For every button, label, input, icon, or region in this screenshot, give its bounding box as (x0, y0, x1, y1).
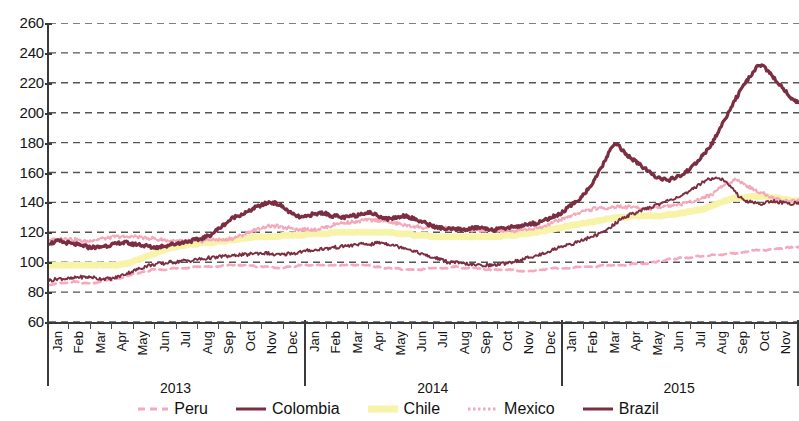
x-axis-month-tick (154, 322, 155, 329)
x-axis-month-tick (733, 322, 734, 329)
page-top-edge (0, 0, 797, 4)
x-axis-month-tick (326, 322, 327, 329)
x-axis-month-tick (90, 322, 91, 329)
x-axis-month-label: Mar (351, 331, 364, 353)
x-axis-month-label: Jul (694, 331, 707, 348)
legend-label-brazil: Brazil (619, 401, 659, 417)
x-axis-month-label: May (651, 331, 664, 356)
x-axis-year-separator (47, 320, 49, 386)
x-axis-month-tick (68, 322, 69, 329)
x-axis-month-label: Dec (544, 331, 557, 354)
y-axis-tick-label: 60 (8, 314, 44, 329)
y-axis-tick-mark (45, 23, 52, 25)
x-axis-month-label: Aug (201, 331, 214, 354)
x-axis-month-tick (497, 322, 498, 329)
x-axis-month-tick (711, 322, 712, 329)
y-axis-tick-mark (45, 202, 52, 204)
x-axis-month-label: Jun (158, 331, 171, 352)
y-axis: 2602402202001801601401201008060 (0, 0, 44, 340)
x-axis-month-tick (540, 322, 541, 329)
x-axis-month-tick (754, 322, 755, 329)
x-axis-month-tick (111, 322, 112, 329)
x-axis-month-label: Dec (286, 331, 299, 354)
x-axis-month-tick (454, 322, 455, 329)
legend-item-mexico[interactable]: Mexico (468, 401, 555, 417)
x-axis-month-label: Oct (501, 331, 514, 351)
x-axis-month-label: Feb (329, 331, 342, 353)
y-axis-tick-label: 260 (8, 15, 44, 30)
y-axis-tick-label: 160 (8, 165, 44, 180)
x-axis-month-tick (518, 322, 519, 329)
x-axis-month-label: Sep (736, 331, 749, 354)
x-axis-month-tick (776, 322, 777, 329)
x-axis-month-tick (176, 322, 177, 329)
x-axis-month-label: Jan (308, 331, 321, 352)
x-axis-month-label: Jun (672, 331, 685, 352)
x-axis-month-label: Aug (715, 331, 728, 354)
x-axis-month-label: Jan (51, 331, 64, 352)
plot-canvas (49, 23, 799, 322)
x-axis-month-label: May (394, 331, 407, 356)
x-axis-month-label: May (136, 331, 149, 356)
y-axis-tick-label: 120 (8, 224, 44, 239)
x-axis-month-tick (690, 322, 691, 329)
x-axis-month-label: Jun (415, 331, 428, 352)
legend-swatch-colombia-icon (236, 402, 266, 416)
y-axis-tick-mark (45, 262, 52, 264)
x-axis-month-tick (218, 322, 219, 329)
y-axis-tick-mark (45, 113, 52, 115)
x-axis-month-label: Apr (372, 331, 385, 351)
legend-swatch-chile-icon (368, 402, 398, 416)
series-line-brazil (49, 65, 799, 249)
x-axis-year-label: 2014 (304, 381, 561, 395)
legend-item-colombia[interactable]: Colombia (236, 401, 340, 417)
x-axis-month-tick (668, 322, 669, 329)
x-axis-month-label: Feb (72, 331, 85, 353)
x-axis-month-tick (283, 322, 284, 329)
y-axis-tick-mark (45, 232, 52, 234)
x-axis-month-tick (240, 322, 241, 329)
x-axis-month-tick (197, 322, 198, 329)
x-axis-month-tick (347, 322, 348, 329)
x-axis-year-separator (561, 320, 563, 386)
legend-label-chile: Chile (404, 401, 440, 417)
legend-label-peru: Peru (174, 401, 208, 417)
y-axis-tick-mark (45, 292, 52, 294)
x-axis-month-label: Jul (436, 331, 449, 348)
x-axis-month-label: Sep (479, 331, 492, 354)
x-axis-year-separator (304, 320, 306, 386)
legend-item-brazil[interactable]: Brazil (583, 401, 659, 417)
x-axis-month-tick (390, 322, 391, 329)
x-axis-month-tick (476, 322, 477, 329)
legend-label-mexico: Mexico (504, 401, 555, 417)
y-axis-tick-mark (45, 143, 52, 145)
y-axis-tick-label: 200 (8, 105, 44, 120)
y-axis-tick-mark (45, 83, 52, 85)
legend-item-chile[interactable]: Chile (368, 401, 440, 417)
x-axis-year-label: 2015 (561, 381, 797, 395)
x-axis-month-label: Nov (522, 331, 535, 354)
x-axis-month-label: Jul (179, 331, 192, 348)
x-axis-month-label: Nov (265, 331, 278, 354)
x-axis-month-tick (626, 322, 627, 329)
x-axis-month-label: Mar (94, 331, 107, 353)
x-axis-month-label: Nov (779, 331, 792, 354)
x-axis-month-tick (261, 322, 262, 329)
x-axis-month-tick (647, 322, 648, 329)
x-axis-month-tick (604, 322, 605, 329)
chart-legend: PeruColombiaChileMexicoBrazil (0, 396, 797, 421)
plot-area (47, 23, 797, 322)
x-axis-month-label: Aug (458, 331, 471, 354)
series-lines (49, 65, 799, 285)
legend-item-peru[interactable]: Peru (138, 401, 208, 417)
y-axis-tick-mark (45, 322, 52, 324)
x-axis-month-label: Apr (629, 331, 642, 351)
y-axis-tick-mark (45, 173, 52, 175)
y-axis-tick-label: 180 (8, 135, 44, 150)
x-axis-year-label: 2013 (47, 381, 304, 395)
x-axis-month-tick (433, 322, 434, 329)
y-axis-tick-label: 220 (8, 75, 44, 90)
x-axis-month-label: Apr (115, 331, 128, 351)
x-axis-month-label: Oct (244, 331, 257, 351)
